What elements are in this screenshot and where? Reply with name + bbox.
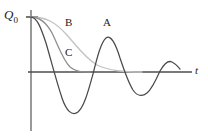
curve-label-c: C xyxy=(65,47,72,58)
curve-label-a: A xyxy=(103,17,111,28)
damped-oscillation-figure: Q0 t A B C xyxy=(0,0,208,139)
curve-b-path xyxy=(31,17,142,72)
y-axis-label-symbol: Q xyxy=(4,7,13,22)
y-axis-label-subscript: 0 xyxy=(13,15,18,25)
x-axis-label-t: t xyxy=(195,65,198,76)
curve-label-b: B xyxy=(65,17,72,28)
curve-a-path xyxy=(31,17,180,114)
y-axis-label-q0: Q0 xyxy=(4,8,18,25)
